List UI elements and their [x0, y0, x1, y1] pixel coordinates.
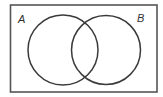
set-a-label: A — [17, 13, 25, 25]
venn-diagram: A B — [0, 0, 163, 97]
set-b-label: B — [137, 12, 144, 24]
